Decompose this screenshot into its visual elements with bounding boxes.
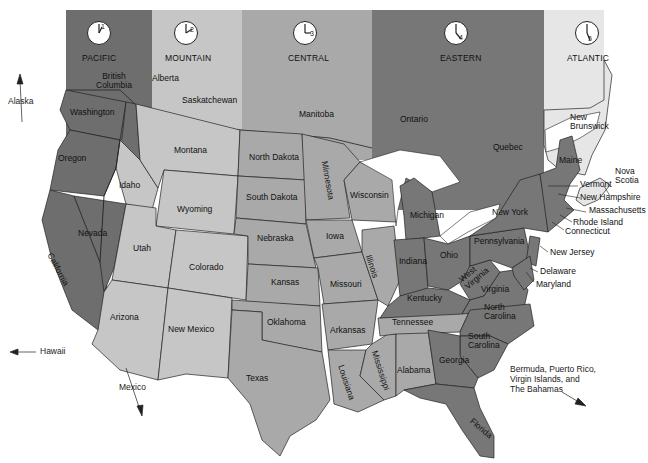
label-manitoba: Manitoba [299, 110, 334, 119]
label-massachusetts: Massachusetts [589, 206, 646, 215]
label-nevada: Nevada [78, 229, 107, 238]
zone-label-mountain: MOUNTAIN [165, 53, 211, 63]
label-indiana: Indiana [399, 257, 427, 266]
label-north-carolina: North Carolina [484, 303, 516, 321]
label-new-jersey: New Jersey [550, 248, 594, 257]
zone-label-pacific: PACIFIC [82, 53, 116, 63]
state-new-mexico [158, 288, 232, 380]
label-texas: Texas [246, 374, 268, 383]
state-indiana [394, 238, 428, 296]
label-maine: Maine [559, 156, 582, 165]
label-new-brunswick: New Brunswick [570, 113, 609, 131]
label-vermont: Vermont [580, 180, 612, 189]
label-washington: Washington [70, 108, 115, 117]
label-ontario: Ontario [400, 115, 428, 124]
label-wisconsin: Wisconsin [350, 191, 389, 200]
label-hawaii: Hawaii [40, 347, 66, 357]
label-kansas: Kansas [271, 278, 299, 287]
zone-label-eastern: EASTERN [440, 53, 482, 63]
label-alaska: Alaska [8, 97, 34, 107]
clock-icon-central: 3 [293, 21, 317, 45]
label-north-dakota: North Dakota [249, 153, 299, 162]
state-arizona [92, 280, 168, 380]
label-georgia: Georgia [439, 356, 469, 365]
label-tennessee: Tennessee [392, 318, 433, 327]
label-british-columbia: British Columbia [96, 72, 132, 90]
label-missouri: Missouri [330, 280, 362, 289]
label-south-dakota: South Dakota [246, 193, 298, 202]
label-mexico: Mexico [119, 383, 146, 393]
label-alabama: Alabama [397, 366, 431, 375]
clock-icon-pacific: 1 [87, 21, 111, 45]
label-quebec: Quebec [493, 143, 523, 152]
clock-icon-atlantic: 5 [575, 21, 599, 45]
label-nebraska: Nebraska [257, 234, 293, 243]
label-arkansas: Arkansas [330, 326, 365, 335]
label-connecticut: Connecticut [565, 227, 610, 236]
label-new-hampshire: New Hampshire [580, 193, 640, 202]
label-caribbean: Bermuda, Puerto Rico, Virgin Islands, an… [510, 365, 596, 394]
label-pennsylvania: Pennsylvania [474, 237, 525, 246]
label-kentucky: Kentucky [407, 294, 442, 303]
label-arizona: Arizona [110, 313, 139, 322]
label-south-carolina: South Carolina [468, 332, 500, 350]
clock-icon-mountain: 2 [174, 21, 198, 45]
zone-label-atlantic: ATLANTIC [567, 53, 609, 63]
label-nova-scotia: Nova Scotia [615, 167, 639, 185]
clock-icon-eastern: 4 [444, 21, 468, 45]
label-oklahoma: Oklahoma [267, 318, 306, 327]
label-wyoming: Wyoming [177, 205, 212, 214]
label-oregon: Oregon [58, 154, 86, 163]
state-wyoming [156, 170, 238, 234]
label-michigan: Michigan [410, 211, 444, 220]
label-montana: Montana [174, 146, 207, 155]
label-new-mexico: New Mexico [168, 325, 214, 334]
label-saskatchewan: Saskatchewan [182, 96, 237, 105]
label-delaware: Delaware [540, 267, 576, 276]
label-alberta: Alberta [152, 74, 179, 83]
label-ohio: Ohio [440, 251, 458, 260]
label-utah: Utah [133, 244, 151, 253]
label-colorado: Colorado [189, 263, 224, 272]
label-virginia: Virginia [481, 285, 509, 294]
state-oregon [50, 130, 120, 196]
label-maryland: Maryland [536, 280, 571, 289]
label-iowa: Iowa [326, 232, 344, 241]
label-idaho: Idaho [119, 181, 140, 190]
zone-label-central: CENTRAL [288, 53, 329, 63]
label-new-york: New York [492, 208, 528, 217]
